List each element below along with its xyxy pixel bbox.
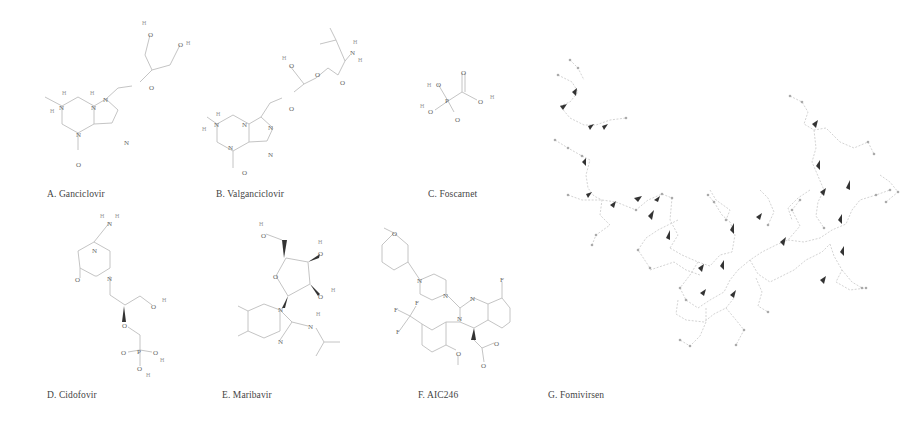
atom: N: [457, 315, 462, 323]
atom: H: [259, 221, 264, 227]
ganciclovir-structure: N N N N N O O O O H H H H H: [0, 0, 190, 200]
atom: N: [417, 277, 422, 285]
atom: F: [394, 306, 398, 314]
atom: H: [162, 297, 167, 303]
panel-maribavir: O O O O N N N H H H H E. Maribavir: [200, 200, 380, 425]
atom: N: [278, 338, 283, 346]
atom: O: [318, 250, 323, 258]
panel-label-cidofovir: D. Cidofovir: [47, 390, 97, 400]
fomivirsen-structure: [530, 30, 920, 360]
atom: O: [178, 41, 183, 49]
atom: O: [481, 362, 486, 370]
atom: H: [331, 287, 336, 293]
atom: H: [316, 311, 321, 317]
atom: O: [428, 108, 433, 116]
atom: H: [358, 57, 363, 63]
atom: N: [350, 49, 355, 57]
atom: H: [115, 213, 120, 219]
fomivirsen-atoms: [554, 59, 900, 348]
atom: N: [268, 151, 273, 159]
atom: N: [443, 292, 448, 300]
atom: H: [216, 111, 221, 117]
atom: N: [107, 220, 112, 228]
atom: N: [228, 144, 233, 152]
atom: H: [142, 20, 147, 26]
atom: N: [107, 275, 112, 283]
atom: O: [455, 116, 460, 124]
fomivirsen-wedges: [560, 88, 850, 298]
atom: O: [315, 71, 320, 79]
panel-label-valganciclovir: B. Valganciclovir: [216, 189, 284, 199]
fomivirsen-backbone: [555, 60, 898, 346]
atom: N: [308, 323, 313, 331]
atom: F: [415, 299, 419, 307]
atom: O: [289, 62, 294, 70]
panel-valganciclovir: N N N N N O O O O O N H H H H H B. Valga…: [190, 0, 380, 200]
atom: N: [278, 306, 283, 314]
atom: N: [59, 104, 64, 112]
atom: O: [392, 230, 397, 238]
atom: O: [478, 98, 483, 106]
atom: N: [214, 121, 219, 129]
panel-label-aic246: F. AIC246: [418, 390, 458, 400]
atom: O: [153, 349, 158, 357]
atom: H: [50, 108, 55, 114]
atom: F: [500, 276, 504, 284]
valganciclovir-structure: N N N N N O O O O O N H H H H H: [190, 0, 380, 200]
atom: O: [121, 349, 126, 357]
atom: N: [91, 104, 96, 112]
atom: N: [103, 96, 108, 104]
panel-foscarnet: O O O O O P H H H C. Foscarnet: [380, 0, 520, 200]
atom: H: [100, 213, 105, 219]
atom: O: [75, 276, 80, 284]
atom: N: [124, 139, 129, 147]
atom: N: [268, 124, 273, 132]
panel-cidofovir: N N N O O O O O O P H H H H H D. Cidofov…: [0, 200, 190, 425]
panel-aic246: O N N N N F F F F O O O F. AIC246: [370, 200, 540, 425]
atom: O: [461, 69, 466, 77]
atom: O: [122, 322, 127, 330]
panel-label-fomivirsen: G. Fomivirsen: [548, 390, 604, 400]
panel-fomivirsen: G. Fomivirsen: [530, 30, 920, 425]
panel-label-ganciclovir: A. Ganciclovir: [47, 189, 105, 199]
atom: N: [470, 295, 475, 303]
atom: H: [427, 82, 432, 88]
atom: H: [490, 94, 495, 100]
atom: O: [494, 340, 499, 348]
atom: H: [282, 55, 287, 61]
atom: O: [149, 84, 154, 92]
atom: O: [137, 365, 142, 373]
atom: O: [289, 105, 294, 113]
atom: H: [420, 103, 425, 109]
atom: H: [202, 126, 207, 132]
atom: O: [261, 232, 266, 240]
atom: H: [90, 90, 95, 96]
atom: N: [92, 247, 97, 255]
atom: P: [445, 97, 449, 105]
atom: F: [396, 328, 400, 336]
atom: O: [242, 169, 247, 177]
atom: H: [160, 357, 165, 363]
atom: H: [318, 239, 323, 245]
atom: H: [62, 90, 67, 96]
atom: O: [273, 273, 278, 281]
foscarnet-structure: O O O O O P H H H: [380, 0, 520, 200]
atom: O: [340, 79, 345, 87]
panel-label-maribavir: E. Maribavir: [222, 390, 272, 400]
atom: O: [456, 350, 461, 358]
atom: N: [76, 131, 81, 139]
atom: O: [151, 303, 156, 311]
atom: O: [76, 161, 81, 169]
atom: O: [148, 31, 153, 39]
atom: P: [137, 348, 141, 356]
atom: H: [146, 372, 151, 378]
atom: O: [318, 293, 323, 301]
atom: H: [353, 39, 358, 45]
atom: N: [242, 121, 247, 129]
panel-ganciclovir: N N N N N O O O O H H H H H A. Ganciclov…: [0, 0, 190, 200]
atom: O: [436, 81, 441, 89]
panel-label-foscarnet: C. Foscarnet: [428, 189, 477, 199]
